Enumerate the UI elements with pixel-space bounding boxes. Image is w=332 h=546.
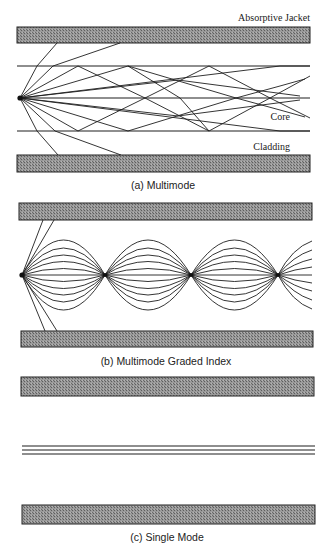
bottom-jacket xyxy=(22,505,315,524)
focal-point xyxy=(276,273,280,277)
light-source-point xyxy=(17,95,22,100)
light-source-point xyxy=(19,272,24,277)
bottom-jacket xyxy=(21,331,313,347)
optical-fiber-diagram: Absorptive Jacket Core xyxy=(0,0,332,546)
bottom-jacket xyxy=(17,155,310,172)
panel-multimode: Absorptive Jacket Core xyxy=(17,12,310,191)
core-label: Core xyxy=(271,111,291,122)
panel-single-mode: (c) Single Mode xyxy=(21,377,315,543)
focal-point xyxy=(103,273,107,277)
multimode-rays xyxy=(20,43,310,155)
caption-multimode: (a) Multimode xyxy=(131,179,195,191)
top-jacket xyxy=(19,203,312,220)
top-jacket xyxy=(17,27,310,43)
panel-graded-index: (b) Multimode Graded Index xyxy=(19,203,313,367)
caption-graded-index: (b) Multimode Graded Index xyxy=(101,355,232,367)
graded-index-rays xyxy=(22,240,312,310)
top-jacket xyxy=(21,377,314,396)
cladding-label: Cladding xyxy=(253,141,290,152)
focal-point xyxy=(189,273,193,277)
caption-single-mode: (c) Single Mode xyxy=(130,531,204,543)
absorptive-jacket-label: Absorptive Jacket xyxy=(238,12,310,23)
